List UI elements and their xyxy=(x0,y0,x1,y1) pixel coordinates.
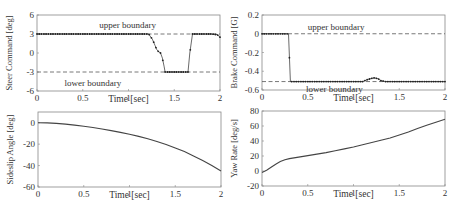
data-series xyxy=(38,123,221,171)
data-marker xyxy=(38,33,40,35)
data-marker xyxy=(141,33,143,35)
x-axis-label: Time [sec] xyxy=(333,93,374,103)
data-marker xyxy=(173,71,175,73)
x-tick-label: 0.5 xyxy=(77,93,89,103)
data-marker xyxy=(430,81,432,83)
data-marker xyxy=(135,33,137,35)
data-marker xyxy=(323,81,325,83)
y-tick-labels: -60-40-200 xyxy=(23,118,40,192)
data-marker xyxy=(405,81,407,83)
data-marker xyxy=(261,33,263,35)
data-marker xyxy=(284,33,286,35)
data-marker xyxy=(107,33,109,35)
data-marker xyxy=(334,81,336,83)
y-tick-label: -40 xyxy=(23,161,35,171)
data-marker xyxy=(212,33,214,35)
y-tick-label: 3 xyxy=(30,29,35,39)
data-marker xyxy=(389,81,391,83)
data-marker xyxy=(286,33,288,35)
data-marker xyxy=(114,33,116,35)
data-marker xyxy=(300,81,302,83)
data-marker xyxy=(112,33,114,35)
data-marker xyxy=(277,33,279,35)
data-marker xyxy=(48,33,50,35)
data-marker xyxy=(183,71,185,73)
data-marker xyxy=(84,33,86,35)
data-marker xyxy=(215,34,217,36)
x-tick-label: 1.5 xyxy=(394,92,406,102)
data-marker xyxy=(385,81,387,83)
data-marker xyxy=(217,34,219,36)
panel-sideslip-angle: -60-40-200 00.511.52 Sideslip Angle [deg… xyxy=(5,112,223,200)
data-marker xyxy=(337,81,339,83)
data-marker xyxy=(282,33,284,35)
data-marker xyxy=(435,81,437,83)
data-marker xyxy=(176,71,178,73)
data-marker xyxy=(171,71,173,73)
data-marker xyxy=(70,33,72,35)
data-marker xyxy=(408,81,410,83)
data-marker xyxy=(437,81,439,83)
y-tick-label: 80 xyxy=(250,106,260,116)
data-marker xyxy=(266,33,268,35)
data-marker xyxy=(371,77,373,79)
data-marker xyxy=(403,81,405,83)
boundary-label: upper boundary xyxy=(99,20,156,30)
x-axis-label: Time [sec] xyxy=(108,94,149,104)
data-series xyxy=(262,119,445,172)
panel-steer-command: -6-3036 00.511.52 upper boundarylower bo… xyxy=(4,10,222,104)
data-marker xyxy=(205,33,207,35)
data-marker xyxy=(268,33,270,35)
data-line xyxy=(38,123,221,171)
data-marker xyxy=(180,71,182,73)
y-tick-label: -60 xyxy=(23,182,35,192)
data-marker xyxy=(194,33,196,35)
y-tick-labels: -0.6-0.4-0.200.2 xyxy=(245,10,264,95)
y-tick-label: -20 xyxy=(23,139,35,149)
data-marker xyxy=(332,81,334,83)
data-marker xyxy=(116,33,118,35)
data-marker xyxy=(139,33,141,35)
x-tick-label: 0 xyxy=(260,188,265,198)
data-marker xyxy=(157,50,159,52)
data-marker xyxy=(394,81,396,83)
data-marker xyxy=(162,59,164,61)
data-marker xyxy=(98,33,100,35)
x-tick-label: 2 xyxy=(443,188,448,198)
data-marker xyxy=(380,80,382,82)
data-marker xyxy=(125,33,127,35)
data-marker xyxy=(311,81,313,83)
data-marker xyxy=(433,81,435,83)
data-marker xyxy=(77,33,79,35)
x-axis-label: Time [sec] xyxy=(333,189,374,199)
data-marker xyxy=(144,33,146,35)
data-marker xyxy=(327,81,329,83)
data-marker xyxy=(73,33,75,35)
data-marker xyxy=(426,81,428,83)
data-marker xyxy=(201,33,203,35)
data-marker xyxy=(91,33,93,35)
data-marker xyxy=(360,81,362,83)
data-marker xyxy=(419,81,421,83)
y-tick-label: -20 xyxy=(247,181,259,191)
data-marker xyxy=(50,33,52,35)
data-marker xyxy=(132,33,134,35)
data-marker xyxy=(270,33,272,35)
data-marker xyxy=(273,33,275,35)
data-marker xyxy=(289,57,291,59)
x-tick-label: 1.5 xyxy=(169,93,181,103)
x-tick-label: 2 xyxy=(218,93,223,103)
data-marker xyxy=(59,33,61,35)
data-marker xyxy=(376,77,378,79)
data-marker xyxy=(52,33,54,35)
y-axis-label: Yaw Rate [deg/s] xyxy=(229,119,239,178)
data-marker xyxy=(378,78,380,80)
data-marker xyxy=(424,81,426,83)
data-marker xyxy=(309,81,311,83)
data-marker xyxy=(89,33,91,35)
data-marker xyxy=(105,33,107,35)
x-tick-label: 0.5 xyxy=(78,189,90,199)
data-marker xyxy=(346,81,348,83)
figure-canvas: -6-3036 00.511.52 upper boundarylower bo… xyxy=(0,0,464,212)
data-marker xyxy=(123,33,125,35)
